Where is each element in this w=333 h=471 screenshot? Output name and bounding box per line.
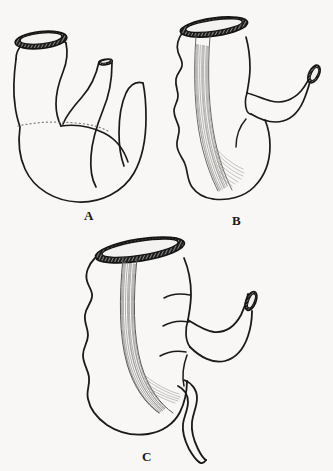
figure-label-b: B bbox=[232, 214, 241, 227]
page-background bbox=[0, 0, 333, 471]
plate-drawing bbox=[0, 0, 333, 471]
figure-label-a: A bbox=[84, 209, 94, 222]
figure-label-c: C bbox=[142, 450, 152, 463]
anatomical-plate: A B C bbox=[0, 0, 333, 471]
